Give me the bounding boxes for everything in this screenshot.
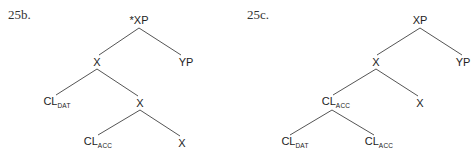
tree-node-root: XP [413, 15, 428, 26]
node-label: X [416, 97, 423, 109]
tree-branch [332, 110, 374, 135]
node-label: CL [281, 135, 295, 147]
node-subscript: ACC [379, 142, 393, 149]
tree-branch [139, 28, 181, 55]
syntax-tree-figure: 25b. 25c. *XPXYPCLDATXCLACCX XPXYPCLACCX… [0, 0, 475, 161]
tree-branch [333, 69, 376, 95]
tree-node-x2: X [136, 98, 143, 109]
tree-node-x1: X [93, 57, 100, 68]
node-label: CL [365, 135, 379, 147]
tree-branch [140, 110, 180, 136]
tree-branch [99, 28, 139, 55]
tree-node-yp: YP [179, 57, 194, 68]
node-subscript: DAT [295, 142, 308, 149]
tree-node-root: *XP [130, 15, 149, 26]
node-label: CL [43, 95, 57, 107]
tree-node-x3: X [178, 138, 185, 149]
node-label: X [372, 56, 379, 68]
node-label: YP [456, 56, 471, 68]
node-label: *XP [130, 14, 149, 26]
tree-branch [377, 28, 420, 55]
tree-node-cl-dat: CLDAT [281, 136, 308, 150]
tree-branch [97, 69, 138, 96]
node-label: CL [322, 95, 336, 107]
node-label: X [136, 97, 143, 109]
tree-node-x2: X [416, 98, 423, 109]
tree-node-cl-acc-1: CLACC [322, 96, 350, 110]
example-label-25c: 25c. [247, 7, 269, 23]
tree-branch [290, 110, 332, 135]
tree-node-yp: YP [456, 57, 471, 68]
node-label: CL [84, 135, 98, 147]
node-subscript: ACC [336, 102, 350, 109]
tree-node-cl-acc: CLACC [84, 136, 112, 150]
node-label: XP [413, 14, 428, 26]
node-label: X [93, 56, 100, 68]
tree-node-x1: X [372, 57, 379, 68]
node-subscript: DAT [57, 102, 70, 109]
node-subscript: ACC [98, 142, 112, 149]
tree-branch [98, 110, 140, 135]
tree-node-cl-dat: CLDAT [43, 96, 70, 110]
tree-branch [420, 28, 462, 55]
tree-branch [376, 69, 418, 96]
tree-edges [0, 0, 475, 161]
node-label: YP [179, 56, 194, 68]
example-label-25b: 25b. [8, 7, 31, 23]
tree-branch [56, 69, 97, 95]
tree-node-cl-acc-2: CLACC [365, 136, 393, 150]
node-label: X [178, 137, 185, 149]
